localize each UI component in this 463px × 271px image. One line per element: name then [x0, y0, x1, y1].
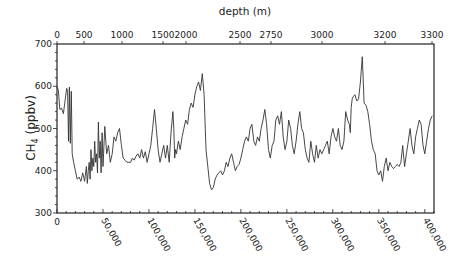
x-axis-bottom: 050,000100,000150,000200,000250,000300,0…: [54, 209, 448, 253]
x-tick-label: 0: [54, 217, 60, 227]
y-tick-label: 700: [35, 39, 52, 49]
depth-tick-label: 3200: [374, 30, 397, 40]
y-tick-label: 600: [35, 81, 52, 91]
top-axis-title: depth (m): [219, 5, 271, 17]
x-tick-label: 350,000: [375, 216, 402, 253]
x-tick-label: 150,000: [191, 216, 218, 253]
chart: depth (m) 050010001500200025002750300032…: [0, 0, 463, 271]
x-tick-label: 50,000: [99, 216, 124, 249]
y-tick-label: 300: [35, 208, 52, 218]
top-depth-axis: 050010001500200025002750300032003300: [54, 30, 444, 44]
depth-tick-label: 3000: [311, 30, 334, 40]
depth-tick-label: 2000: [175, 30, 198, 40]
x-tick-label: 200,000: [237, 216, 264, 253]
depth-tick-label: 2750: [260, 30, 283, 40]
x-tick-label: 300,000: [329, 216, 356, 253]
depth-tick-label: 2500: [229, 30, 252, 40]
depth-tick-label: 500: [75, 30, 92, 40]
x-tick-label: 400,000: [421, 216, 448, 253]
y-tick-label: 400: [35, 166, 52, 176]
depth-tick-label: 3300: [421, 30, 444, 40]
plot-frame: [57, 44, 434, 213]
y-axis: 300400500600700: [35, 39, 57, 218]
depth-tick-label: 1000: [111, 30, 134, 40]
x-tick-label: 250,000: [283, 216, 310, 253]
depth-tick-label: 1500: [152, 30, 175, 40]
ch4-series-line: [57, 57, 432, 190]
y-axis-title: CH4 (ppbv): [24, 95, 40, 161]
depth-tick-label: 0: [54, 30, 60, 40]
x-tick-label: 100,000: [145, 216, 172, 253]
